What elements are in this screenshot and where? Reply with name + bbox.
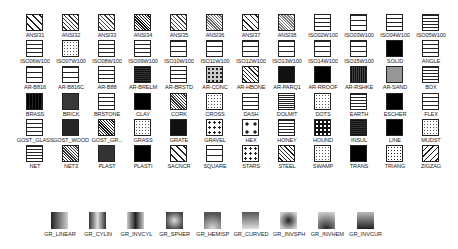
gradient-swatch-gr-hemisp[interactable]: GR_HEMISP — [194, 212, 232, 242]
gradient-swatch-gr-spher[interactable]: GR_SPHER — [156, 212, 194, 242]
pattern-swatch-net3[interactable]: NET3 — [53, 145, 89, 171]
gradient-swatch-gr-curved[interactable]: GR_CURVED — [232, 212, 270, 242]
pattern-swatch-ar-sand[interactable]: AR-SAND — [377, 66, 413, 92]
pattern-swatch-iso15w100[interactable]: ISO15W100 — [341, 40, 377, 66]
pattern-swatch-square[interactable]: SQUARE — [197, 145, 233, 171]
pattern-swatch-iso11w100[interactable]: ISO11W100 — [197, 40, 233, 66]
pattern-swatch-ansi31[interactable]: ANSI31 — [17, 14, 53, 40]
pattern-swatch-ansi32[interactable]: ANSI32 — [53, 14, 89, 40]
pattern-swatch-iso04w100[interactable]: ISO04W100 — [377, 14, 413, 40]
pattern-swatch-solid[interactable]: SOLID — [377, 40, 413, 66]
pattern-swatch-insul[interactable]: INSUL — [341, 119, 377, 145]
hatch-pattern-icon — [98, 40, 115, 57]
pattern-swatch-iso02w100[interactable]: ISO02W100 — [305, 14, 341, 40]
pattern-swatch-iso07w100[interactable]: ISO07W100 — [53, 40, 89, 66]
pattern-swatch-cross[interactable]: CROSS — [197, 93, 233, 119]
hatch-pattern-icon — [98, 93, 115, 110]
pattern-swatch-dash[interactable]: DASH — [233, 93, 269, 119]
pattern-swatch-iso09w100[interactable]: ISO09W100 — [125, 40, 161, 66]
gradient-icon — [166, 212, 183, 229]
pattern-swatch-ansi36[interactable]: ANSI36 — [197, 14, 233, 40]
pattern-swatch-earth[interactable]: EARTH — [341, 93, 377, 119]
hatch-pattern-icon — [170, 66, 187, 83]
pattern-swatch-brass[interactable]: BRASS — [17, 93, 53, 119]
gradient-swatch-gr-linear[interactable]: GR_LINEAR — [41, 212, 79, 242]
pattern-swatch-mudst[interactable]: MUDST — [413, 119, 449, 145]
pattern-swatch-ansi38[interactable]: ANSI38 — [269, 14, 305, 40]
pattern-swatch-iso14w100[interactable]: ISO14W100 — [305, 40, 341, 66]
pattern-swatch-clay[interactable]: CLAY — [125, 93, 161, 119]
gradient-icon — [280, 212, 297, 229]
pattern-swatch-gost-gr[interactable]: GOST_GR... — [89, 119, 125, 145]
pattern-swatch-gost-wood[interactable]: GOST_WOOD — [53, 119, 89, 145]
pattern-swatch-ar-hbone[interactable]: AR-HBONE — [233, 66, 269, 92]
gradient-swatch-gr-invhem[interactable]: GR_INVHEM — [308, 212, 346, 242]
pattern-swatch-dolmit[interactable]: DOLMIT — [269, 93, 305, 119]
pattern-swatch-grass[interactable]: GRASS — [125, 119, 161, 145]
pattern-swatch-hex[interactable]: HEX — [233, 119, 269, 145]
pattern-swatch-ar-b816c[interactable]: AR-B816C — [53, 66, 89, 92]
pattern-swatch-cork[interactable]: CORK — [161, 93, 197, 119]
pattern-swatch-trans[interactable]: TRANS — [341, 145, 377, 171]
pattern-swatch-angle[interactable]: ANGLE — [413, 40, 449, 66]
pattern-swatch-dots[interactable]: DOTS — [305, 93, 341, 119]
pattern-swatch-honey[interactable]: HONEY — [269, 119, 305, 145]
pattern-swatch-net[interactable]: NET — [17, 145, 53, 171]
hatch-pattern-icon — [350, 145, 367, 162]
pattern-swatch-brick[interactable]: BRICK — [53, 93, 89, 119]
pattern-swatch-iso03w100[interactable]: ISO03W100 — [341, 14, 377, 40]
pattern-swatch-iso10w100[interactable]: ISO10W100 — [161, 40, 197, 66]
pattern-swatch-line[interactable]: LINE — [377, 119, 413, 145]
pattern-swatch-plast[interactable]: PLAST — [89, 145, 125, 171]
gradient-swatch-gr-invsph[interactable]: GR_INVSPH — [270, 212, 308, 242]
pattern-label: ANGLE — [409, 58, 453, 65]
pattern-swatch-ar-rroof[interactable]: AR-RROOF — [305, 66, 341, 92]
pattern-swatch-plasti[interactable]: PLASTI — [125, 145, 161, 171]
pattern-swatch-ansi33[interactable]: ANSI33 — [89, 14, 125, 40]
pattern-swatch-ar-parq1[interactable]: AR-PARQ1 — [269, 66, 305, 92]
pattern-swatch-ar-conc[interactable]: AR-CONC — [197, 66, 233, 92]
pattern-swatch-ansi37[interactable]: ANSI37 — [233, 14, 269, 40]
pattern-swatch-stars[interactable]: STARS — [233, 145, 269, 171]
pattern-swatch-brstone[interactable]: BRSTONE — [89, 93, 125, 119]
hatch-pattern-icon — [242, 40, 259, 57]
gradient-swatch-gr-invcyl[interactable]: GR_INVCYL — [117, 212, 155, 242]
pattern-swatch-sacncr[interactable]: SACNCR — [161, 145, 197, 171]
hatch-pattern-icon — [350, 66, 367, 83]
hatch-pattern-icon — [134, 119, 151, 136]
hatch-pattern-icon — [350, 40, 367, 57]
pattern-swatch-gravel[interactable]: GRAVEL — [197, 119, 233, 145]
pattern-swatch-ansi35[interactable]: ANSI35 — [161, 14, 197, 40]
pattern-swatch-iso08w100[interactable]: ISO08W100 — [89, 40, 125, 66]
gradient-swatch-gr-cylin[interactable]: GR_CYLIN — [79, 212, 117, 242]
pattern-swatch-ar-brstd[interactable]: AR-BRSTD — [161, 66, 197, 92]
pattern-swatch-iso12w100[interactable]: ISO12W100 — [233, 40, 269, 66]
pattern-swatch-escher[interactable]: ESCHER — [377, 93, 413, 119]
pattern-swatch-ansi34[interactable]: ANSI34 — [125, 14, 161, 40]
gradient-swatch-gr-invcur[interactable]: GR_INVCUR — [347, 212, 385, 242]
hatch-pattern-icon — [422, 66, 439, 83]
hatch-pattern-icon — [170, 40, 187, 57]
hatch-pattern-icon — [206, 14, 223, 31]
pattern-swatch-ar-b816[interactable]: AR-B816 — [17, 66, 53, 92]
hatch-pattern-icon — [26, 14, 43, 31]
hatch-pattern-icon — [62, 93, 79, 110]
pattern-swatch-hound[interactable]: HOUND — [305, 119, 341, 145]
pattern-swatch-gost-glass[interactable]: GOST_GLASS — [17, 119, 53, 145]
pattern-swatch-steel[interactable]: STEEL — [269, 145, 305, 171]
pattern-swatch-ar-brelm[interactable]: AR-BRELM — [125, 66, 161, 92]
pattern-swatch-flex[interactable]: FLEX — [413, 93, 449, 119]
pattern-swatch-triang[interactable]: TRIANG — [377, 145, 413, 171]
hatch-pattern-icon — [278, 40, 295, 57]
pattern-swatch-iso06w100[interactable]: ISO06W100 — [17, 40, 53, 66]
pattern-swatch-grate[interactable]: GRATE — [161, 119, 197, 145]
hatch-pattern-icon — [242, 14, 259, 31]
pattern-swatch-swamp[interactable]: SWAMP — [305, 145, 341, 171]
pattern-swatch-ar-rshke[interactable]: AR-RSHKE — [341, 66, 377, 92]
pattern-swatch-iso05w100[interactable]: ISO05W100 — [413, 14, 449, 40]
pattern-swatch-iso13w100[interactable]: ISO13W100 — [269, 40, 305, 66]
pattern-swatch-box[interactable]: BOX — [413, 66, 449, 92]
pattern-swatch-ar-b88[interactable]: AR-B88 — [89, 66, 125, 92]
hatch-pattern-icon — [278, 93, 295, 110]
pattern-swatch-zigzag[interactable]: ZIGZAG — [413, 145, 449, 171]
